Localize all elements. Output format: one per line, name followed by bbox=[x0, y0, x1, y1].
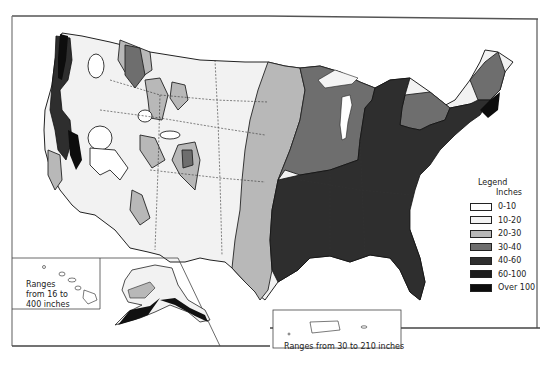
puerto-rico-range-label: Ranges from 30 to 210 inches bbox=[284, 342, 404, 352]
legend-swatch bbox=[470, 270, 492, 278]
legend-label: Over 100 bbox=[498, 283, 535, 292]
legend-label: 30-40 bbox=[498, 243, 521, 252]
legend-title: Legend bbox=[478, 178, 540, 188]
legend-item: Over 100 bbox=[470, 281, 540, 295]
hawaii-range-label: Ranges from 16 to 400 inches bbox=[26, 280, 70, 310]
legend-label: 20-30 bbox=[498, 229, 521, 238]
legend-item: 10-20 bbox=[470, 214, 540, 228]
legend: Legend Inches 0-10 10-20 20-30 30-40 40-… bbox=[470, 178, 540, 295]
hawaii-label-line: 400 inches bbox=[26, 300, 70, 310]
legend-label: 40-60 bbox=[498, 256, 521, 265]
legend-item: 60-100 bbox=[470, 268, 540, 282]
legend-item: 20-30 bbox=[470, 227, 540, 241]
legend-swatch bbox=[470, 216, 492, 224]
legend-swatch bbox=[470, 203, 492, 211]
legend-item: 0-10 bbox=[470, 200, 540, 214]
legend-swatch bbox=[470, 243, 492, 251]
hawaii-label-line: Ranges bbox=[26, 280, 70, 290]
legend-label: 10-20 bbox=[498, 216, 521, 225]
legend-label: 0-10 bbox=[498, 202, 516, 211]
legend-item: 40-60 bbox=[470, 254, 540, 268]
legend-swatch bbox=[470, 257, 492, 265]
legend-swatch bbox=[470, 230, 492, 238]
hawaii-label-line: from 16 to bbox=[26, 290, 70, 300]
legend-unit: Inches bbox=[496, 188, 540, 198]
legend-item: 30-40 bbox=[470, 241, 540, 255]
legend-swatch bbox=[470, 284, 492, 292]
legend-label: 60-100 bbox=[498, 270, 526, 279]
